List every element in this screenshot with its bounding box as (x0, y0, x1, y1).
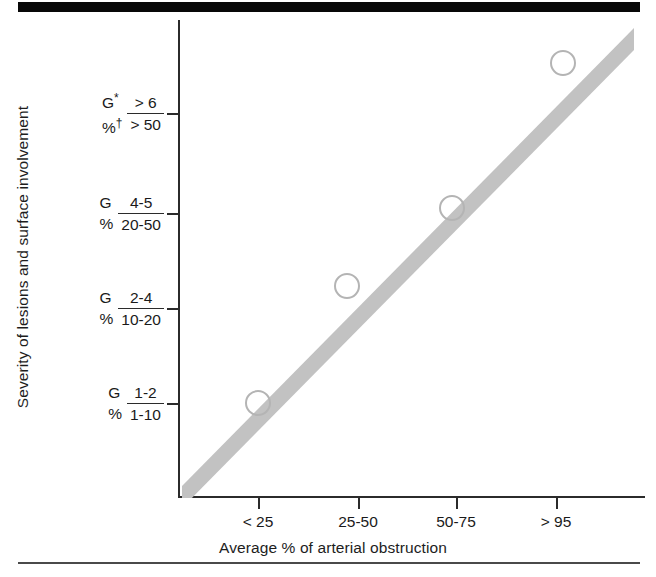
y-axis-tick-label-3: G % 4-5 20-50 (100, 192, 164, 234)
y-axis-tick (167, 308, 178, 310)
figure-top-rule (18, 2, 640, 12)
x-axis-tick-label-4: > 95 (541, 513, 572, 531)
y-axis-tick (167, 213, 178, 215)
x-axis-tick (556, 498, 558, 509)
x-axis-tick-label-2: 25-50 (338, 513, 378, 531)
figure-chart-area: Severity of lesions and surface involvem… (0, 12, 656, 560)
x-axis-tick (258, 498, 260, 509)
y-axis-tick (167, 403, 178, 405)
y-label-value-bottom: 1-10 (127, 403, 164, 424)
y-label-value-bottom: > 50 (127, 113, 164, 134)
y-axis-tick-label-1: G % 1-2 1-10 (108, 382, 164, 424)
y-label-symbol-bottom: %† (102, 113, 122, 137)
y-label-value-top: > 6 (132, 93, 160, 113)
y-label-symbol-bottom: % (100, 213, 114, 233)
y-label-symbol-top: G (100, 288, 112, 308)
data-point (550, 50, 576, 76)
y-label-value-top: 4-5 (127, 193, 155, 213)
y-label-symbol-bottom: % (100, 308, 114, 328)
x-axis-tick (358, 498, 360, 509)
y-axis-title: Severity of lesions and surface involvem… (14, 22, 40, 492)
data-point (334, 273, 360, 299)
trend-band-shape (182, 28, 634, 498)
y-label-value-bottom: 20-50 (118, 213, 164, 234)
y-axis-tick-label-4: G* %† > 6 > 50 (102, 92, 164, 134)
trend-band (178, 20, 645, 498)
x-axis-tick-label-1: < 25 (243, 513, 274, 531)
x-axis-tick-label-3: 50-75 (436, 513, 476, 531)
y-axis-tick-label-2: G % 2-4 10-20 (100, 287, 164, 329)
x-axis-title: Average % of arterial obstruction (178, 539, 488, 557)
y-label-value-top: 1-2 (131, 383, 159, 403)
data-point (439, 195, 465, 221)
y-label-symbol-top: G* (102, 89, 119, 113)
x-axis-tick (456, 498, 458, 509)
y-label-symbol-top: G (100, 193, 112, 213)
y-label-symbol-bottom: % (108, 403, 122, 423)
plot-area: G* %† > 6 > 50 G % 4-5 20-50 (178, 20, 645, 498)
data-point (245, 390, 271, 416)
y-label-symbol-top-mark: * (114, 91, 119, 105)
y-axis-tick (167, 113, 178, 115)
figure-bottom-rule (18, 562, 640, 564)
y-label-value-bottom: 10-20 (118, 308, 164, 329)
y-label-symbol-top: G (108, 383, 120, 403)
y-label-value-top: 2-4 (127, 288, 155, 308)
y-label-symbol-bottom-mark: † (116, 116, 123, 130)
